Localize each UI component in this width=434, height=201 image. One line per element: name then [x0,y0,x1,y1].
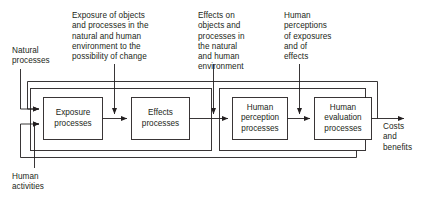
input-label-human-activities: Human activities [12,172,72,193]
label-effects-processes: Effects processes [132,98,189,139]
label-human-perception-processes: Human perception processes [233,98,287,139]
process-flow-diagram: Natural processes Human activities Expos… [0,0,434,201]
input-label-natural-processes: Natural processes [12,46,72,67]
annotation-effects-on-objects: Effects on objects and processes in the … [198,11,262,73]
output-label-costs-and-benefits: Costs and benefits [383,122,433,153]
label-exposure-processes: Exposure processes [44,98,102,139]
label-human-evaluation-processes: Human evaluation processes [315,98,371,139]
annotation-human-perceptions: Human perceptions of exposures and of ef… [284,11,350,62]
annotation-exposure-of-objects: Exposure of objects and processes in the… [72,11,176,62]
